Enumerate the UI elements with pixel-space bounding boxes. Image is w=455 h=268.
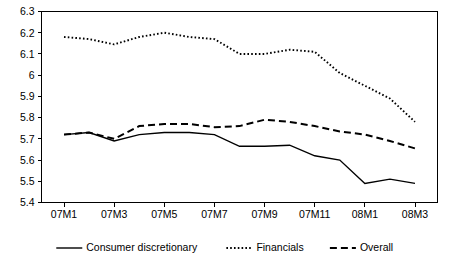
y-tick-label: 5.5 bbox=[20, 175, 35, 187]
y-tick-label: 5.7 bbox=[20, 133, 35, 145]
y-tick-label: 5.6 bbox=[20, 154, 35, 166]
y-tick-label: 6.1 bbox=[20, 48, 35, 60]
x-tick-label: 07M7 bbox=[201, 208, 227, 220]
y-axis-ticks: 5.45.55.65.75.85.966.16.26.3 bbox=[20, 5, 42, 208]
series-line-overall bbox=[64, 120, 415, 149]
y-tick-label: 6.3 bbox=[20, 5, 35, 17]
data-series-group bbox=[64, 33, 415, 184]
y-tick-label: 6.2 bbox=[20, 27, 35, 39]
x-tick-label: 08M3 bbox=[402, 208, 428, 220]
x-tick-label: 07M5 bbox=[151, 208, 177, 220]
legend-label: Overall bbox=[360, 241, 393, 253]
x-axis-ticks: 07M107M307M507M707M907M1108M108M3 bbox=[51, 203, 428, 221]
x-tick-label: 08M1 bbox=[352, 208, 378, 220]
x-tick-label: 07M1 bbox=[51, 208, 77, 220]
plot-frame bbox=[42, 12, 438, 203]
plot-border bbox=[42, 12, 438, 203]
y-tick-label: 6 bbox=[29, 69, 35, 81]
series-line-financials bbox=[64, 33, 415, 122]
y-tick-label: 5.4 bbox=[20, 196, 35, 208]
legend-label: Consumer discretionary bbox=[86, 241, 198, 253]
series-line-consumer-discretionary bbox=[64, 132, 415, 183]
x-tick-label: 07M9 bbox=[251, 208, 277, 220]
x-tick-label: 07M11 bbox=[299, 208, 330, 220]
x-tick-label: 07M3 bbox=[101, 208, 127, 220]
chart-legend: Consumer discretionaryFinancialsOverall bbox=[56, 241, 393, 253]
chart-canvas: 5.45.55.65.75.85.966.16.26.3 07M107M307M… bbox=[0, 0, 455, 268]
line-chart: 5.45.55.65.75.85.966.16.26.3 07M107M307M… bbox=[0, 0, 455, 268]
y-tick-label: 5.8 bbox=[20, 111, 35, 123]
legend-label: Financials bbox=[256, 241, 303, 253]
y-tick-label: 5.9 bbox=[20, 90, 35, 102]
